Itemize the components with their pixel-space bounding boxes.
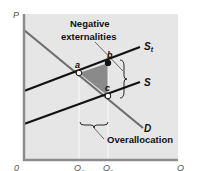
point-a-label: a — [75, 60, 80, 70]
point-c-label: c — [105, 83, 110, 93]
y-axis-label: P — [13, 10, 19, 20]
x-axis-label: Q — [177, 163, 184, 171]
point-b-label: b — [107, 50, 113, 60]
qo-tick-label: Qo — [74, 163, 85, 171]
qe-tick-label: Qe — [103, 163, 114, 171]
supply-label: S — [144, 77, 151, 88]
negative-externalities-label-line2: externalities — [61, 31, 116, 42]
point-c — [105, 93, 111, 99]
externalities-diagram: a b c St S D Negative externalities Over… — [0, 0, 208, 171]
overallocation-label: Overallocation — [107, 134, 173, 145]
demand-label: D — [144, 123, 151, 134]
point-a — [76, 70, 82, 76]
point-b — [105, 60, 111, 66]
origin-label: 0 — [14, 163, 19, 171]
negative-externalities-label-line1: Negative — [70, 18, 110, 29]
